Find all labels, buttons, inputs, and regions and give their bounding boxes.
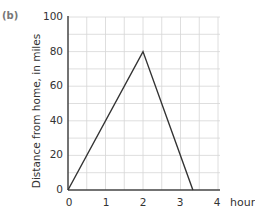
grid	[68, 17, 220, 190]
plot-area	[0, 0, 255, 217]
